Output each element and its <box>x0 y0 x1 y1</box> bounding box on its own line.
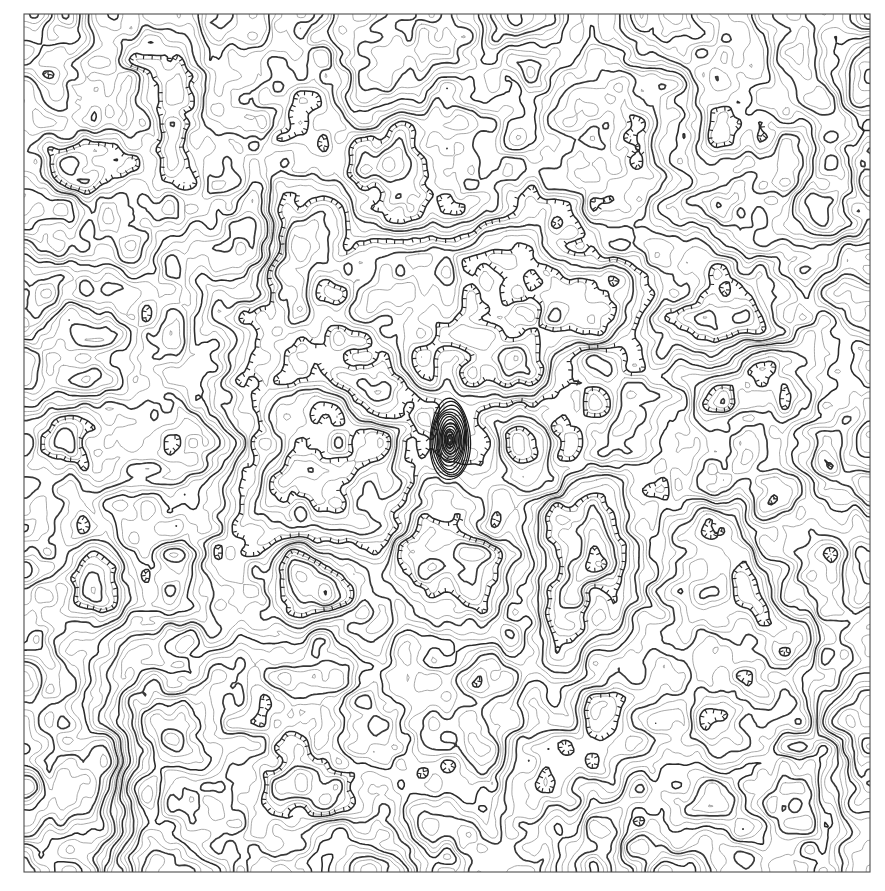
contour-figure <box>0 0 885 891</box>
intermediate-contour <box>847 260 848 262</box>
depression-contour <box>324 591 326 595</box>
intermediate-contour <box>687 262 688 263</box>
index-contour <box>716 77 719 81</box>
index-contour <box>618 668 619 671</box>
depression-contour <box>737 101 739 102</box>
intermediate-contour <box>252 200 253 203</box>
depression-contour <box>149 42 153 43</box>
depression-contour <box>548 749 549 750</box>
intermediate-contour <box>830 554 831 555</box>
contour-plot-svg <box>0 0 885 891</box>
intermediate-contour <box>337 416 338 418</box>
intermediate-contour <box>374 752 375 753</box>
intermediate-contour <box>714 451 717 452</box>
intermediate-contour <box>723 480 724 481</box>
index-contour <box>857 210 859 212</box>
depression-contour <box>114 159 117 161</box>
